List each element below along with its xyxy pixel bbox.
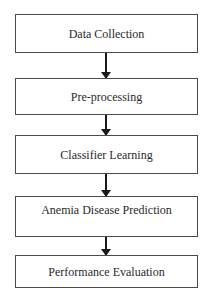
step-data-collection: Data Collection	[15, 14, 198, 53]
arrow-down-icon	[105, 115, 107, 135]
step-label: Classifier Learning	[60, 149, 152, 161]
arrow-down-icon	[105, 53, 107, 78]
step-label: Data Collection	[69, 28, 145, 40]
step-label: Performance Evaluation	[48, 266, 164, 278]
step-pre-processing: Pre-processing	[15, 78, 198, 115]
arrow-down-icon	[105, 174, 107, 196]
step-performance-evaluation: Performance Evaluation	[15, 255, 198, 288]
step-label: Pre-processing	[71, 91, 142, 103]
step-anemia-disease-prediction: Anemia Disease Prediction	[15, 196, 198, 237]
arrow-down-icon	[105, 237, 107, 255]
step-classifier-learning: Classifier Learning	[15, 135, 198, 174]
step-label: Anemia Disease Prediction	[41, 204, 172, 216]
